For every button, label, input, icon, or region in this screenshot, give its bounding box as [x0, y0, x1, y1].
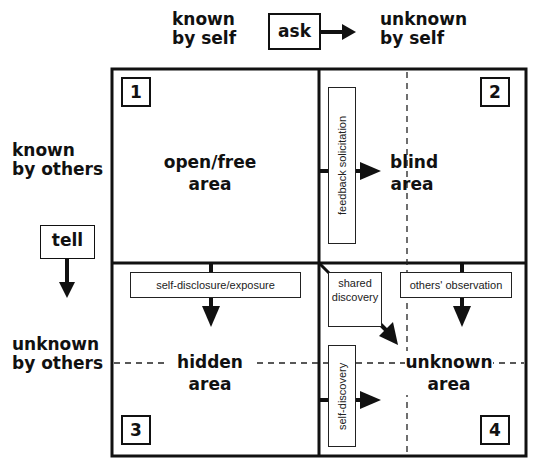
shared-discovery-line2: discovery	[329, 290, 381, 304]
diagram-lines	[0, 0, 535, 469]
quadrant-2-number: 2	[480, 77, 510, 107]
shared-discovery-box: shared discovery	[328, 272, 382, 327]
hidden-area-line2: area	[165, 373, 255, 395]
feedback-solicitation-label: feedback solicitation	[336, 116, 348, 215]
hidden-area-label: hidden area	[165, 351, 255, 395]
quadrant-3-number: 3	[121, 415, 151, 445]
unknown-area-line1: unknown	[405, 351, 493, 373]
open-area-line2: area	[150, 173, 270, 195]
self-disclosure-label: self-disclosure/exposure	[156, 279, 275, 291]
open-area-label: open/free area	[150, 151, 270, 195]
others-observation-box: others' observation	[400, 272, 512, 298]
quadrant-4-number: 4	[480, 415, 510, 445]
unknown-area-line2: area	[405, 373, 493, 395]
blind-area-line2: area	[390, 173, 434, 195]
open-area-line1: open/free	[150, 151, 270, 173]
blind-area-line1: blind	[390, 151, 434, 173]
self-discovery-label: self-discovery	[336, 362, 348, 429]
self-disclosure-box: self-disclosure/exposure	[130, 272, 301, 298]
shared-discovery-line1: shared	[329, 276, 381, 290]
hidden-area-line1: hidden	[165, 351, 255, 373]
unknown-area-label: unknown area	[405, 351, 493, 395]
feedback-solicitation-box: feedback solicitation	[328, 87, 356, 244]
ask-arrow-icon	[321, 24, 356, 40]
quadrant-1-number: 1	[121, 77, 151, 107]
tell-arrow-icon	[59, 259, 75, 298]
self-discovery-box: self-discovery	[328, 345, 356, 447]
blind-area-label: blind area	[390, 151, 434, 195]
others-observation-label: others' observation	[410, 279, 503, 291]
